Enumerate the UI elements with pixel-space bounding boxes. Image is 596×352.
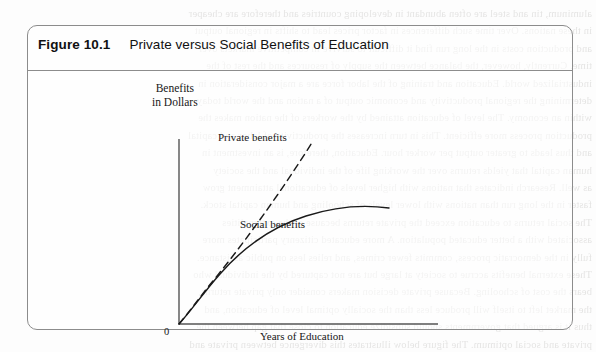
scanned-page: aluminum, tin and steel are often abunda…	[0, 0, 596, 352]
plot-area: Benefits in Dollars Private benefits Soc…	[28, 71, 572, 329]
chart-svg	[28, 71, 574, 329]
figure-title: Figure 10.1Private versus Social Benefit…	[38, 37, 389, 52]
figure-caption: Private versus Social Benefits of Educat…	[129, 37, 389, 52]
bleed-line: aluminum, tin and steel are often abunda…	[4, 8, 592, 19]
social-benefits-annotation: Social benefits	[240, 218, 305, 230]
private-benefits-annotation: Private benefits	[218, 131, 287, 143]
private-benefits-curve	[179, 141, 313, 324]
figure-number: Figure 10.1	[38, 37, 110, 52]
x-axis-label: Years of Education	[260, 330, 344, 342]
origin-label: 0	[164, 326, 169, 337]
y-axis-label: Benefits in Dollars	[152, 82, 198, 109]
y-axis-label-line1: Benefits	[152, 82, 198, 96]
figure-box: Figure 10.1Private versus Social Benefit…	[27, 25, 573, 330]
figure-header: Figure 10.1Private versus Social Benefit…	[28, 26, 572, 71]
y-axis-label-line2: in Dollars	[152, 96, 198, 110]
